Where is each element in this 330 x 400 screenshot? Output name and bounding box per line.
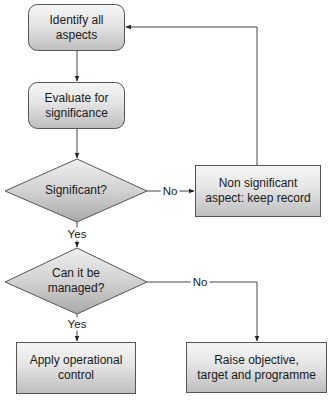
edge-label-significant-no: No [161,185,180,198]
node-significant-shape [5,159,147,222]
node-apply-shape [17,343,136,394]
node-managed-shape [5,248,147,314]
edge-label-managed-yes: Yes [66,318,89,331]
edge-label-significant-yes: Yes [66,228,89,241]
node-evaluate-shape [29,83,125,129]
node-raise-shape [187,343,327,393]
edge-label-managed-no: No [191,276,210,289]
node-non-significant-shape [196,166,321,217]
edge-loop-back [126,27,257,165]
flowchart-canvas [0,0,330,400]
edge-managed-no [147,282,257,341]
node-identify-shape [29,5,125,51]
